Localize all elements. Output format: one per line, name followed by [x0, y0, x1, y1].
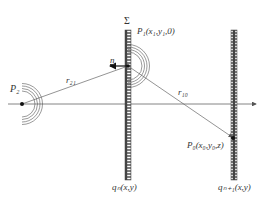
label-p2: P₂ — [10, 84, 20, 94]
point-p0 — [231, 136, 235, 140]
label-n: n — [110, 56, 115, 65]
point-p2 — [20, 102, 24, 106]
screen-qn1 — [231, 30, 237, 180]
label-sigma: Σ — [124, 16, 130, 26]
point-p1 — [126, 64, 130, 68]
diagram-canvas — [0, 0, 262, 198]
screen-sigma — [125, 30, 131, 180]
label-r21: r₂₁ — [66, 76, 76, 85]
label-p0: P₀(x₀,y₀,z) — [187, 141, 224, 150]
label-r10: r₁₀ — [178, 88, 188, 97]
label-qn: qₙ(x,y) — [112, 183, 137, 192]
label-qn1: qₙ₊₁(x,y) — [218, 183, 251, 192]
ray-r21 — [22, 66, 128, 104]
label-p1: P₁(x₁,y₁,0) — [137, 27, 175, 36]
